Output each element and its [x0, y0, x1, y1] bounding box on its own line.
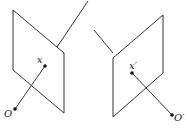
label-O: O [4, 108, 12, 119]
right-projection-line [132, 73, 172, 115]
label-O-prime: O′ [174, 112, 185, 123]
epipolar-diagram: x O x′ O′ [0, 0, 188, 129]
right-ray-line [94, 30, 113, 53]
label-x-prime: x′ [129, 60, 138, 71]
point-x-prime [130, 71, 134, 75]
point-x [43, 64, 47, 68]
right-image-plane [113, 15, 163, 117]
center-O [13, 107, 17, 111]
label-x: x [37, 54, 43, 65]
left-projection-line [15, 66, 45, 109]
left-ray-line [57, 1, 88, 47]
